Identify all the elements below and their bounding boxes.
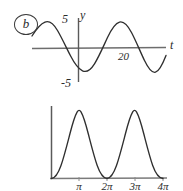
y-axis-label-b: y [80,9,85,21]
x-tick-label-2pi: 2π [101,180,112,191]
panel-d: d 2 z θ [0,95,183,191]
t-axis-label-b: t [170,39,173,51]
t-axis-line [32,48,166,49]
figure-container: b 5 y -5 20 t d 2 z θ π 2π 3π 4π [0,0,183,191]
panel-b: b 5 y -5 20 t [0,0,183,95]
x-tick-label-pi: π [76,180,82,191]
x-tick-label-20: 20 [118,51,129,62]
panel-tag-b: b [14,14,38,35]
x-tick-label-3pi: 3π [129,180,140,191]
y-max-label-b: 5 [62,13,68,25]
x-tick-label-4pi: 4π [157,180,168,191]
cosine-curve-d [52,110,164,178]
y-min-label-b: -5 [61,77,71,89]
panel-d-plot [0,95,183,191]
